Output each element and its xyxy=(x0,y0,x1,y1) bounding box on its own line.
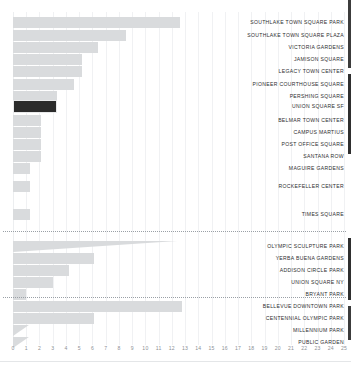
chart-row[interactable]: LEGACY TOWN CENTER xyxy=(0,65,351,78)
chart-row[interactable]: ROCKEFELLER CENTER xyxy=(0,180,351,193)
bar[interactable] xyxy=(13,115,41,126)
bar[interactable] xyxy=(13,30,126,41)
bar-highlighted[interactable] xyxy=(13,100,57,113)
x-tick-17: 17 xyxy=(231,345,245,351)
row-label: LEGACY TOWN CENTER xyxy=(279,65,344,78)
separator-after-bryant-park xyxy=(3,297,346,298)
bar[interactable] xyxy=(13,127,41,138)
bar[interactable] xyxy=(13,209,30,220)
bar[interactable] xyxy=(13,241,177,252)
x-tick-15: 15 xyxy=(205,345,219,351)
x-tick-22: 22 xyxy=(297,345,311,351)
bar[interactable] xyxy=(13,253,94,264)
x-tick-14: 14 xyxy=(191,345,205,351)
x-tick-6: 6 xyxy=(85,345,99,351)
x-tick-7: 7 xyxy=(99,345,113,351)
x-tick-0: 0 xyxy=(6,345,20,351)
bar[interactable] xyxy=(13,313,94,324)
x-tick-21: 21 xyxy=(284,345,298,351)
x-tick-1: 1 xyxy=(19,345,33,351)
chart-row[interactable]: UNION SQUARE SF xyxy=(0,100,351,113)
bar[interactable] xyxy=(13,42,98,53)
x-tick-23: 23 xyxy=(311,345,325,351)
x-tick-20: 20 xyxy=(271,345,285,351)
bottom-rule xyxy=(0,361,351,362)
x-tick-4: 4 xyxy=(59,345,73,351)
row-label: MAGUIRE GARDENS xyxy=(289,162,344,175)
bar[interactable] xyxy=(13,163,30,174)
x-tick-11: 11 xyxy=(152,345,166,351)
chart-row[interactable]: MAGUIRE GARDENS xyxy=(0,162,351,175)
bar[interactable] xyxy=(13,325,29,336)
row-label: SOUTHLAKE TOWN SQUARE PARK xyxy=(250,16,344,29)
x-tick-19: 19 xyxy=(258,345,272,351)
x-tick-5: 5 xyxy=(72,345,86,351)
x-tick-16: 16 xyxy=(218,345,232,351)
bar[interactable] xyxy=(13,139,41,150)
top-rule xyxy=(0,0,351,1)
bar-chart-panel: SOUTHLAKE TOWN SQUARE PARKSOUTHLAKE TOWN… xyxy=(0,0,351,367)
bar[interactable] xyxy=(13,277,53,288)
x-tick-10: 10 xyxy=(138,345,152,351)
bar[interactable] xyxy=(13,181,30,192)
bar[interactable] xyxy=(13,66,82,77)
bar[interactable] xyxy=(13,265,69,276)
bar[interactable] xyxy=(13,79,74,90)
x-tick-13: 13 xyxy=(178,345,192,351)
bar[interactable] xyxy=(13,301,182,312)
bar[interactable] xyxy=(13,151,41,162)
x-axis: 0123456789101112131415161718192021222324… xyxy=(13,345,344,357)
x-tick-8: 8 xyxy=(112,345,126,351)
x-tick-25: 25 xyxy=(337,345,351,351)
chart-row[interactable]: TIMES SQUARE xyxy=(0,208,351,221)
bar[interactable] xyxy=(13,54,82,65)
chart-row[interactable]: SOUTHLAKE TOWN SQUARE PARK xyxy=(0,16,351,29)
row-label: ROCKEFELLER CENTER xyxy=(279,180,344,193)
row-label: TIMES SQUARE xyxy=(302,208,344,221)
bar[interactable] xyxy=(13,17,180,28)
x-tick-2: 2 xyxy=(32,345,46,351)
row-label: UNION SQUARE SF xyxy=(292,100,344,113)
bar[interactable] xyxy=(13,289,26,300)
separator-after-times-square xyxy=(3,231,346,232)
x-tick-3: 3 xyxy=(46,345,60,351)
x-tick-18: 18 xyxy=(244,345,258,351)
x-tick-24: 24 xyxy=(324,345,338,351)
x-tick-9: 9 xyxy=(125,345,139,351)
x-tick-12: 12 xyxy=(165,345,179,351)
